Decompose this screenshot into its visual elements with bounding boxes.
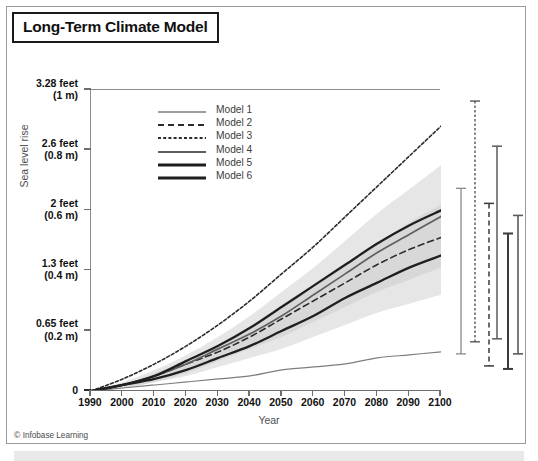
legend-line-swatch bbox=[158, 163, 206, 167]
page-title: Long-Term Climate Model bbox=[23, 18, 208, 36]
y-axis-tick-label: 1.3 feet(0.4 m) bbox=[12, 257, 78, 281]
legend-label: Model 6 bbox=[216, 170, 252, 181]
climate-figure: Long-Term Climate Model 3.28 feet(1 m)2.… bbox=[0, 0, 538, 461]
error-bar bbox=[470, 101, 480, 342]
plot-area bbox=[90, 89, 440, 390]
x-axis-tick-mark bbox=[217, 390, 218, 396]
y-axis-tick-mark bbox=[84, 88, 91, 90]
x-axis-tick-mark bbox=[121, 390, 122, 396]
legend-line-swatch bbox=[158, 110, 206, 114]
y-axis-label: Sea level rise bbox=[18, 96, 30, 216]
x-axis-line bbox=[90, 390, 440, 392]
y-axis-tick-mark bbox=[84, 269, 91, 271]
x-axis-tick-mark bbox=[248, 390, 249, 396]
error-bar bbox=[484, 203, 494, 366]
error-bars-canvas bbox=[446, 89, 532, 390]
x-axis-tick-mark bbox=[439, 390, 440, 396]
legend-label: Model 3 bbox=[216, 130, 252, 141]
x-axis-tick-mark bbox=[185, 390, 186, 396]
legend-line-swatch bbox=[158, 150, 206, 154]
credit-text: Infobase Learning bbox=[23, 431, 89, 440]
figure-title-box: Long-Term Climate Model bbox=[12, 12, 219, 43]
y-axis-tick-mark bbox=[84, 329, 91, 331]
x-axis-tick-mark bbox=[344, 390, 345, 396]
legend-line-swatch bbox=[158, 123, 206, 127]
error-bar-panel bbox=[446, 89, 532, 390]
model-curve bbox=[91, 352, 441, 391]
copyright-credit: © Infobase Learning bbox=[14, 430, 88, 440]
chart-canvas bbox=[91, 90, 441, 391]
y-axis-tick-label: 0.65 feet(0.2 m) bbox=[12, 317, 78, 341]
error-bar bbox=[456, 188, 466, 354]
legend-label: Model 2 bbox=[216, 117, 252, 128]
y-axis-tick-mark bbox=[84, 209, 91, 211]
y-axis-tick-label: 0 bbox=[12, 384, 78, 396]
x-axis-tick-mark bbox=[280, 390, 281, 396]
error-bar bbox=[503, 233, 513, 368]
legend-label: Model 5 bbox=[216, 157, 252, 168]
y-axis-tick-mark bbox=[84, 148, 91, 150]
error-bar bbox=[513, 215, 523, 353]
x-axis-tick-label: 2100 bbox=[418, 396, 462, 408]
x-axis-tick-mark bbox=[376, 390, 377, 396]
legend-label: Model 4 bbox=[216, 144, 252, 155]
x-axis-label: Year bbox=[0, 414, 538, 426]
x-axis-tick-mark bbox=[153, 390, 154, 396]
x-axis-tick-mark bbox=[408, 390, 409, 396]
copyright-symbol: © bbox=[14, 430, 20, 440]
error-bar bbox=[492, 146, 502, 339]
page-bottom-strip bbox=[14, 451, 524, 461]
legend-line-swatch bbox=[158, 136, 206, 140]
x-axis-tick-mark bbox=[89, 390, 90, 396]
x-axis-tick-mark bbox=[312, 390, 313, 396]
legend-line-swatch bbox=[158, 176, 206, 180]
legend-label: Model 1 bbox=[216, 104, 252, 115]
